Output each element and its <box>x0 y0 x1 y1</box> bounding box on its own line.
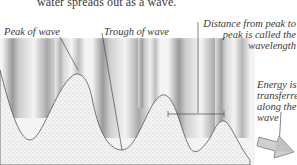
wavelength-label-line-3: wavelength <box>202 40 296 51</box>
peak-label: Peak of wave <box>4 26 60 37</box>
energy-label-line-3: along the <box>257 101 297 112</box>
wavelength-label-line-2: peak is called the <box>202 29 296 40</box>
energy-label-line-4: wave <box>257 112 297 123</box>
energy-label-line-1: Energy is <box>257 79 297 90</box>
trough-label: Trough of wave <box>104 26 169 37</box>
wave-diagram: water spreads out as a wave. Peak of wav… <box>0 0 297 165</box>
wavelength-label: Distance from peak to peak is called the… <box>202 18 296 51</box>
wavelength-label-line-1: Distance from peak to <box>202 18 296 29</box>
diagram-caption: water spreads out as a wave. <box>37 0 176 10</box>
direction-arrow-icon <box>257 136 294 158</box>
energy-label: Energy is transferre along the wave <box>257 79 297 123</box>
energy-label-line-2: transferre <box>257 90 297 101</box>
